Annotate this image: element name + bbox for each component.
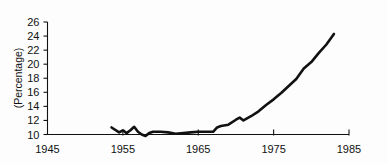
x-tick-label-group: 19451955196519751985 <box>35 143 361 155</box>
y-tick-label: 22 <box>27 44 39 56</box>
y-tick-group <box>44 22 48 135</box>
chart-container: 101214161820222426 19451955196519751985 … <box>0 0 387 165</box>
y-tick-label: 14 <box>27 100 39 112</box>
y-tick-label: 26 <box>27 16 39 28</box>
y-axis-title: (Percentage) <box>12 48 24 109</box>
x-tick-label: 1975 <box>261 143 285 155</box>
x-tick-label: 1945 <box>35 143 59 155</box>
y-tick-label: 18 <box>27 72 39 84</box>
data-series-line <box>112 34 334 136</box>
y-tick-label: 16 <box>27 86 39 98</box>
x-tick-label: 1985 <box>337 143 361 155</box>
y-tick-label: 10 <box>27 129 39 141</box>
x-tick-label: 1965 <box>186 143 210 155</box>
y-tick-label-group: 101214161820222426 <box>27 16 39 141</box>
y-tick-label: 12 <box>27 114 39 126</box>
line-chart-svg: 101214161820222426 19451955196519751985 … <box>0 0 387 165</box>
y-tick-label: 20 <box>27 58 39 70</box>
y-tick-label: 24 <box>27 30 39 42</box>
x-tick-label: 1955 <box>111 143 135 155</box>
